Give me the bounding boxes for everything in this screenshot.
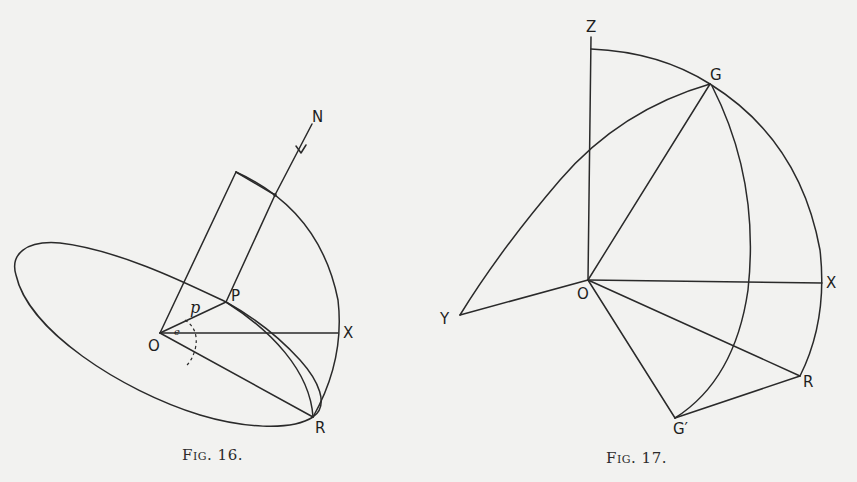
fig16-angle-arc xyxy=(185,320,196,365)
fig16-label-R: R xyxy=(315,421,325,436)
fig17-outer-arc xyxy=(591,49,822,376)
fig16-caption: Fig. 16. xyxy=(182,446,243,464)
fig17-line-OGprime xyxy=(588,280,675,418)
book-page: N P O X R p e Fig. 16. Z G O X Y R G′ Fi… xyxy=(0,0,857,482)
fig16-orbit-ellipse xyxy=(15,243,321,427)
fig17-line-GprimeR xyxy=(675,376,800,418)
fig17-label-Y: Y xyxy=(440,312,449,327)
fig16-label-p: p xyxy=(190,300,200,316)
fig16-plane-right-edge xyxy=(226,195,275,302)
fig17-caption-number: 17. xyxy=(642,449,667,467)
fig16-label-X: X xyxy=(343,326,353,341)
fig17-arc-GGprime xyxy=(675,86,750,418)
fig17-axis-X xyxy=(588,280,822,283)
fig17-caption: Fig. 17. xyxy=(606,449,667,467)
fig16-sphere-arc xyxy=(236,172,339,417)
fig17-label-G-prime: G′ xyxy=(673,422,688,437)
fig17-label-G: G xyxy=(710,68,722,83)
fig17-axis-Z xyxy=(588,37,591,280)
fig16-diagram xyxy=(15,124,340,426)
fig16-caption-number: 16. xyxy=(218,446,243,464)
fig16-label-N: N xyxy=(312,110,323,125)
fig17-label-R: R xyxy=(803,375,813,390)
fig17-line-OR xyxy=(588,280,800,376)
fig16-line-OR xyxy=(160,333,313,417)
figures-canvas xyxy=(0,0,857,482)
fig17-label-Z: Z xyxy=(586,20,596,35)
fig16-label-O: O xyxy=(148,339,160,354)
fig17-diagram xyxy=(460,37,822,418)
fig16-plane-top-edge xyxy=(236,172,275,195)
fig16-normal-point xyxy=(273,193,277,197)
fig17-label-X: X xyxy=(826,276,836,291)
fig16-label-P: P xyxy=(231,289,240,304)
fig16-label-e: e xyxy=(174,327,180,337)
fig17-line-GO xyxy=(588,84,710,280)
fig16-normal-line xyxy=(275,124,312,195)
fig17-label-O: O xyxy=(577,287,589,302)
fig17-caption-prefix: Fig. xyxy=(606,449,636,467)
fig16-caption-prefix: Fig. xyxy=(182,446,212,464)
